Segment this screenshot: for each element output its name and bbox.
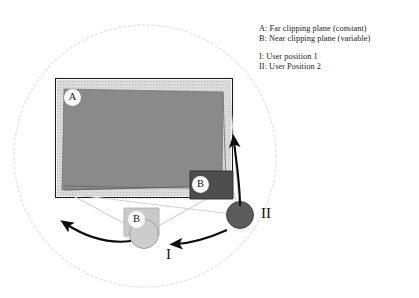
diagram-canvas: A B B I II A: Far clipping plane (consta… <box>0 0 419 298</box>
legend-line-near-plane: B: Near clipping plane (variable) <box>259 34 419 44</box>
legend: A: Far clipping plane (constant) B: Near… <box>259 24 419 73</box>
legend-line-user-2: II: User Position 2 <box>259 62 419 72</box>
near-clipping-plane-label-pos1: B <box>128 211 145 228</box>
legend-line-far-plane: A: Far clipping plane (constant) <box>259 24 419 34</box>
legend-line-user-1: I: User position 1 <box>259 52 419 62</box>
rotation-arrow-left <box>66 224 131 242</box>
near-clipping-plane-label-pos2: B <box>192 176 209 193</box>
rotation-arrow-between-positions <box>176 230 227 244</box>
far-clipping-plane-label: A <box>64 89 81 106</box>
user-position-2-label: II <box>261 205 271 222</box>
user-position-1-label: I <box>166 246 171 263</box>
